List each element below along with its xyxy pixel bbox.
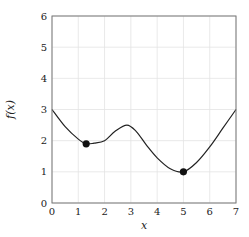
x-tick-label: 7	[233, 206, 239, 217]
y-tick-labels: 0123456	[41, 11, 47, 209]
function-plot: 01234567 0123456 x f(x)	[0, 0, 249, 237]
y-tick-label: 6	[41, 11, 47, 22]
x-tick-label: 4	[154, 206, 160, 217]
y-tick-label: 2	[41, 135, 47, 146]
grid-lines	[52, 16, 236, 203]
x-tick-label: 3	[128, 206, 134, 217]
x-tick-label: 5	[180, 206, 186, 217]
minimum-marker	[83, 140, 90, 147]
x-tick-label: 6	[207, 206, 213, 217]
y-tick-label: 0	[41, 198, 47, 209]
y-tick-label: 5	[41, 42, 47, 53]
minimum-marker	[180, 168, 187, 175]
y-tick-label: 1	[41, 166, 47, 177]
y-tick-label: 3	[41, 104, 47, 115]
x-axis-label: x	[141, 219, 148, 232]
x-tick-label: 1	[75, 206, 81, 217]
y-tick-label: 4	[41, 73, 47, 84]
x-tick-labels: 01234567	[49, 206, 239, 217]
x-tick-label: 2	[101, 206, 107, 217]
x-tick-label: 0	[49, 206, 55, 217]
minimum-markers	[83, 140, 187, 175]
y-axis-label: f(x)	[4, 100, 17, 120]
